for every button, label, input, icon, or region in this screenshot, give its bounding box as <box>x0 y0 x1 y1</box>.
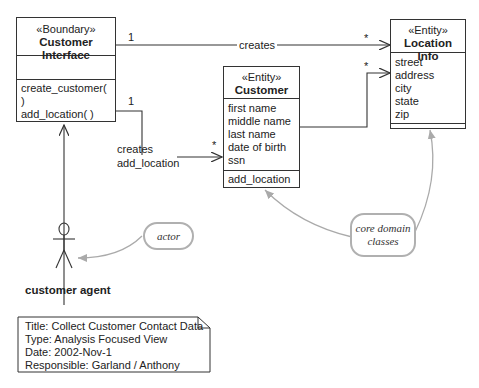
note-title: Title: Collect Customer Contact Data <box>25 320 203 333</box>
stereotype: «Boundary» <box>36 23 95 35</box>
diagram-info-note: Title: Collect Customer Contact Data Typ… <box>21 318 207 374</box>
attribute: ssn <box>228 154 295 167</box>
annotation-text: actor <box>157 230 180 243</box>
attribute: city <box>395 82 461 95</box>
domain-note-to-location <box>415 130 433 232</box>
association-label: add_location <box>117 157 179 170</box>
attribute: zip <box>395 108 461 121</box>
note-date: Date: 2002-Nov-1 <box>25 346 203 359</box>
class-header: «Boundary» Customer Interface <box>17 18 115 56</box>
class-header: «Entity» Customer <box>224 67 299 99</box>
note-type: Type: Analysis Focused View <box>25 333 203 346</box>
attribute: address <box>395 69 461 82</box>
class-location-info[interactable]: «Entity» Location Info street address ci… <box>390 19 466 129</box>
actor-name: customer agent <box>25 284 111 296</box>
operations-section: add_location <box>224 171 299 188</box>
annotation-text: core domain <box>356 222 411 235</box>
domain-note-to-customer <box>265 190 352 237</box>
class-header: «Entity» Location Info <box>391 20 465 53</box>
actor-annotation: actor <box>143 222 194 250</box>
operations-section: create_customer( ) add_location( ) <box>17 80 115 123</box>
operation: add_location( ) <box>21 108 111 121</box>
attribute: middle name <box>228 115 295 128</box>
association-customer-location <box>300 73 390 127</box>
association-label: creates <box>117 143 153 156</box>
multiplicity-label: 1 <box>128 95 134 108</box>
operations-section <box>391 124 465 130</box>
attributes-section: first name middle name last name date of… <box>224 99 299 171</box>
attribute: state <box>395 95 461 108</box>
class-customer-interface[interactable]: «Boundary» Customer Interface create_cus… <box>16 17 116 122</box>
class-name: Customer <box>226 84 297 97</box>
operation: add_location <box>228 173 295 186</box>
stereotype: «Entity» <box>242 71 282 83</box>
annotation-text: classes <box>367 235 398 248</box>
attribute: last name <box>228 128 295 141</box>
attributes-section: street address city state zip <box>391 53 465 124</box>
multiplicity-label: * <box>364 60 368 73</box>
actor-note-connector <box>78 236 142 258</box>
attribute: first name <box>228 102 295 115</box>
multiplicity-label: * <box>364 32 368 45</box>
attribute: date of birth <box>228 141 295 154</box>
operation: create_customer( ) <box>21 82 111 108</box>
class-name-line1: Customer <box>19 36 113 49</box>
domain-annotation: core domain classes <box>350 213 416 257</box>
association-label: creates <box>237 39 277 52</box>
class-customer[interactable]: «Entity» Customer first name middle name… <box>223 66 300 188</box>
stereotype: «Entity» <box>408 24 448 36</box>
note-responsible: Responsible: Garland / Anthony <box>25 359 203 372</box>
multiplicity-label: * <box>212 139 216 152</box>
multiplicity-label: 1 <box>128 31 134 44</box>
